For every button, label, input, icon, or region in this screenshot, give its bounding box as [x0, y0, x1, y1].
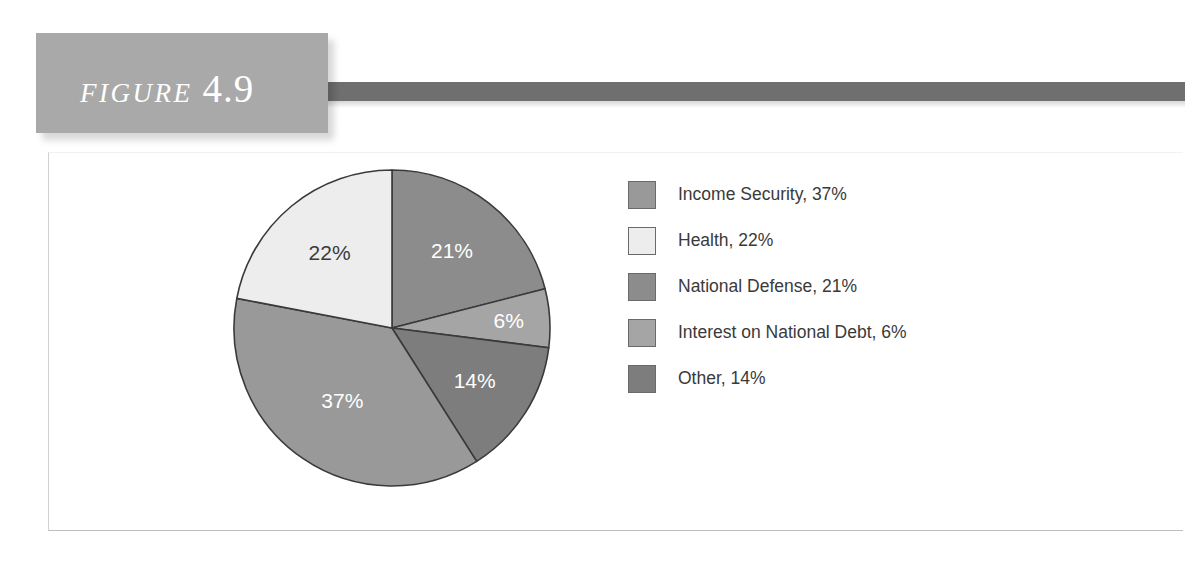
- figure-header-text: FIGURE4.9: [80, 66, 254, 111]
- legend-color-swatch: [628, 181, 656, 209]
- legend-item: Income Security, 37%: [628, 181, 1048, 209]
- legend-item: Interest on National Debt, 6%: [628, 319, 1048, 347]
- legend-item: Other, 14%: [628, 365, 1048, 393]
- legend-item: National Defense, 21%: [628, 273, 1048, 301]
- figure-number-label: 4.9: [202, 67, 254, 110]
- legend-item-label: Health, 22%: [678, 232, 773, 250]
- legend-color-swatch: [628, 227, 656, 255]
- pie-slice-label: 6%: [494, 309, 524, 332]
- legend-item: Health, 22%: [628, 227, 1048, 255]
- pie-slice-label: 14%: [454, 369, 496, 392]
- header-accent-bar: [300, 82, 1185, 101]
- chart-legend: Income Security, 37%Health, 22%National …: [628, 181, 1048, 411]
- pie-slice-label: 22%: [309, 241, 351, 264]
- legend-color-swatch: [628, 319, 656, 347]
- legend-item-label: National Defense, 21%: [678, 278, 857, 296]
- pie-slice-label: 21%: [431, 239, 473, 262]
- legend-item-label: Interest on National Debt, 6%: [678, 324, 907, 342]
- legend-color-swatch: [628, 365, 656, 393]
- figure-header-banner: FIGURE4.9: [36, 33, 328, 133]
- pie-chart-svg: 21%6%14%37%22%: [232, 168, 552, 488]
- legend-item-label: Other, 14%: [678, 370, 766, 388]
- legend-item-label: Income Security, 37%: [678, 186, 847, 204]
- pie-slice-label: 37%: [321, 389, 363, 412]
- header-accent-bar-shadow: [302, 101, 1185, 108]
- pie-chart: 21%6%14%37%22%: [232, 168, 552, 488]
- legend-color-swatch: [628, 273, 656, 301]
- figure-word-label: FIGURE: [80, 78, 192, 108]
